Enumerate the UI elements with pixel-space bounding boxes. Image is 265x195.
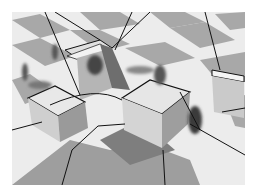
rendered-scene xyxy=(0,0,265,195)
scene-canvas xyxy=(0,0,265,195)
